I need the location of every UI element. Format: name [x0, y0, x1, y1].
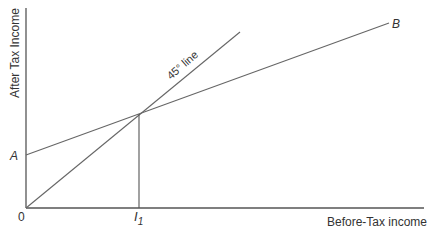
i1-label: I1 [134, 209, 143, 227]
point-b-label: B [392, 17, 400, 31]
origin-label: 0 [18, 210, 25, 224]
line-ab [26, 23, 389, 155]
income-diagram: After Tax Income Before-Tax income 0 A B… [0, 0, 430, 233]
45-degree-line [26, 32, 240, 208]
y-axis-label: After Tax Income [8, 8, 22, 98]
line45-label: 45° line [164, 48, 200, 81]
x-axis-label: Before-Tax income [327, 215, 427, 229]
point-a-label: A [9, 149, 18, 163]
